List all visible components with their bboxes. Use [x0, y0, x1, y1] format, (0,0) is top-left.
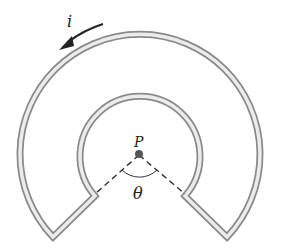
loop-diagram: i P θ: [0, 0, 284, 247]
point-p: [135, 150, 143, 158]
angle-arc: [122, 170, 157, 177]
dashed-radius-right: [139, 155, 185, 194]
point-label: P: [133, 134, 144, 150]
current-label: i: [67, 12, 72, 31]
angle-label: θ: [133, 184, 143, 203]
